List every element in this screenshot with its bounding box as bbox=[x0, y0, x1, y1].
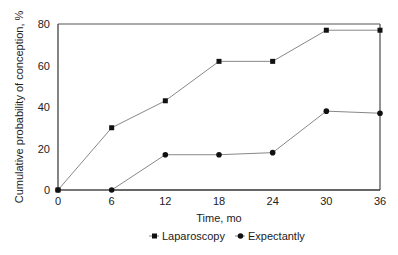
square-marker-icon bbox=[109, 125, 114, 130]
data-series bbox=[55, 28, 383, 193]
square-marker-icon bbox=[152, 234, 157, 239]
y-tick-label: 40 bbox=[38, 101, 50, 113]
x-axis-ticks: 061218243036 bbox=[55, 195, 386, 207]
legend-label: Expectantly bbox=[248, 230, 305, 242]
circle-marker-icon bbox=[270, 150, 276, 156]
plot-frame bbox=[58, 24, 380, 190]
y-axis-title: Cumulative probability of conception, % bbox=[13, 10, 25, 203]
square-marker-icon bbox=[217, 59, 222, 64]
series-laparoscopy bbox=[56, 28, 383, 193]
series-line bbox=[58, 111, 380, 190]
circle-marker-icon bbox=[216, 152, 222, 158]
legend-label: Laparoscopy bbox=[162, 230, 225, 242]
x-tick-label: 18 bbox=[213, 195, 225, 207]
series-expectantly bbox=[55, 108, 383, 192]
square-marker-icon bbox=[378, 28, 383, 33]
square-marker-icon bbox=[324, 28, 329, 33]
square-marker-icon bbox=[163, 98, 168, 103]
square-marker-icon bbox=[270, 59, 275, 64]
y-tick-label: 20 bbox=[38, 143, 50, 155]
legend-item-expectantly: Expectantly bbox=[235, 230, 305, 242]
y-axis-ticks: 020406080 bbox=[38, 18, 50, 196]
circle-marker-icon bbox=[55, 187, 61, 193]
series-line bbox=[58, 30, 380, 190]
x-tick-label: 24 bbox=[267, 195, 279, 207]
x-tick-label: 0 bbox=[55, 195, 61, 207]
x-tick-label: 12 bbox=[159, 195, 171, 207]
legend: LaparoscopyExpectantly bbox=[149, 230, 305, 242]
x-tick-label: 36 bbox=[374, 195, 386, 207]
circle-marker-icon bbox=[377, 110, 383, 116]
circle-marker-icon bbox=[238, 233, 244, 239]
x-axis-title: Time, mo bbox=[196, 212, 241, 224]
x-tick-label: 6 bbox=[109, 195, 115, 207]
y-tick-label: 60 bbox=[38, 60, 50, 72]
legend-item-laparoscopy: Laparoscopy bbox=[149, 230, 225, 242]
circle-marker-icon bbox=[109, 187, 115, 193]
y-tick-label: 0 bbox=[44, 184, 50, 196]
x-tick-label: 30 bbox=[320, 195, 332, 207]
y-tick-label: 80 bbox=[38, 18, 50, 30]
line-chart: 020406080 061218243036 Time, mo Cumulati… bbox=[0, 0, 398, 255]
circle-marker-icon bbox=[324, 108, 330, 114]
circle-marker-icon bbox=[163, 152, 169, 158]
